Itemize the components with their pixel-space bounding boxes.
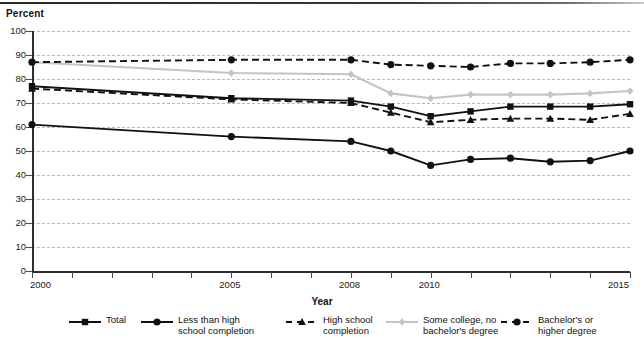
gridline-50 [32,151,630,152]
gridline-60 [32,127,630,128]
y-axis-title: Percent [6,8,44,19]
x-tick-label-2005: 2005 [219,279,240,290]
y-axis-line [32,31,34,272]
x-tick-2006 [271,272,272,278]
chart-legend: TotalLess than high school completionHig… [0,314,644,344]
legend-item-3[interactable]: Some college, no bachelor's degree [385,314,498,336]
legend-label-4: Bachelor's or higher degree [538,314,597,336]
gridline-30 [32,199,630,200]
chart-page: Percent Year TotalLess than high school … [0,0,644,344]
legend-item-1[interactable]: Less than high school completion [140,314,254,336]
x-tick-label-2010: 2010 [419,279,440,290]
x-axis-line [32,271,630,273]
legend-item-2[interactable]: High school completion [285,314,373,336]
y-tick-label-20: 20 [0,217,26,228]
x-tick-label-2015: 2015 [608,279,629,290]
legend-marker-circle-icon [140,315,174,329]
legend-marker-triangle-icon [285,315,319,329]
legend-item-4[interactable]: Bachelor's or higher degree [500,314,597,336]
x-tick-2009 [391,272,392,278]
y-tick-label-70: 70 [0,97,26,108]
x-tick-2015 [630,272,631,278]
gridline-90 [32,55,630,56]
legend-label-2: High school completion [323,314,373,336]
x-tick-2000 [32,272,33,278]
gridline-20 [32,223,630,224]
x-tick-2008 [351,272,352,278]
gridline-80 [32,79,630,80]
x-tick-2007 [311,272,312,278]
y-tick-label-30: 30 [0,193,26,204]
y-tick-label-50: 50 [0,145,26,156]
y-tick-label-40: 40 [0,169,26,180]
x-tick-2012 [510,272,511,278]
x-tick-2001 [72,272,73,278]
y-tick-label-0: 0 [0,265,26,276]
page-top-rule [0,2,644,4]
gridline-40 [32,175,630,176]
legend-item-0[interactable]: Total [68,314,126,329]
x-tick-2010 [431,272,432,278]
y-tick-label-100: 100 [0,25,26,36]
y-tick-label-60: 60 [0,121,26,132]
x-tick-2002 [112,272,113,278]
x-tick-2011 [471,272,472,278]
y-tick-label-80: 80 [0,73,26,84]
legend-label-1: Less than high school completion [178,314,254,336]
legend-marker-diamond-icon [385,315,419,329]
legend-label-0: Total [106,314,126,325]
x-axis-title: Year [0,296,644,307]
gridline-70 [32,103,630,104]
x-tick-2013 [550,272,551,278]
y-tick-label-10: 10 [0,241,26,252]
x-tick-label-2000: 2000 [30,279,51,290]
y-tick-label-90: 90 [0,49,26,60]
x-tick-2014 [590,272,591,278]
x-tick-2003 [152,272,153,278]
x-tick-2004 [191,272,192,278]
legend-marker-square-icon [68,315,102,329]
legend-marker-circle-icon [500,315,534,329]
gridline-10 [32,247,630,248]
plot-area [32,31,630,271]
gridline-100 [32,31,630,32]
x-tick-label-2008: 2008 [339,279,360,290]
legend-label-3: Some college, no bachelor's degree [423,314,498,336]
x-tick-2005 [231,272,232,278]
